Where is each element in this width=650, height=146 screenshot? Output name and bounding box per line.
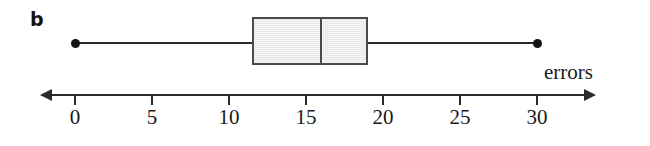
x-axis-tick-label-15: 15	[296, 106, 317, 129]
x-axis-tick-label-25: 25	[450, 106, 471, 129]
x-axis-tick-30	[536, 96, 538, 105]
x-axis-tick-10	[228, 96, 230, 105]
x-axis-tick-5	[151, 96, 153, 105]
x-axis-tick-15	[305, 96, 307, 105]
axis-arrow-right-icon	[584, 89, 596, 101]
interquartile-box	[252, 17, 368, 65]
x-axis-tick-25	[459, 96, 461, 105]
x-axis-tick-label-30: 30	[527, 106, 548, 129]
x-axis-tick-label-10: 10	[219, 106, 240, 129]
whisker-upper	[368, 42, 537, 44]
whisker-lower	[75, 42, 252, 44]
x-axis-tick-20	[382, 96, 384, 105]
median-line	[320, 17, 322, 65]
minimum-marker-dot	[71, 39, 80, 48]
x-axis-tick-label-0: 0	[70, 106, 81, 129]
x-axis-tick-label-20: 20	[373, 106, 394, 129]
x-axis-label: errors	[544, 62, 593, 83]
axis-arrow-left-icon	[40, 89, 52, 101]
x-axis-tick-label-5: 5	[147, 106, 158, 129]
x-axis-tick-0	[74, 96, 76, 105]
x-axis-line	[48, 94, 588, 96]
boxplot-figure: b 051015202530 errors	[0, 0, 650, 146]
maximum-marker-dot	[533, 39, 542, 48]
